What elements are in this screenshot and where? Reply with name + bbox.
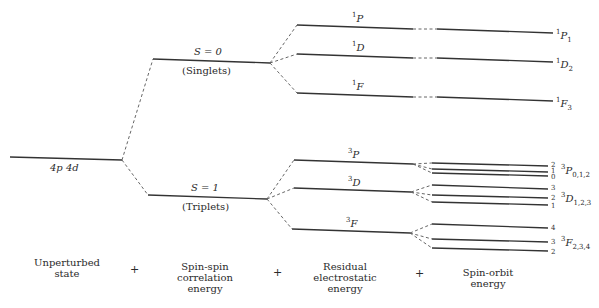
split-to-singlet [122, 59, 153, 160]
term-label-1P: 1P [352, 12, 363, 24]
j-label: 3 [551, 185, 555, 192]
term-label-1F: 1F [352, 80, 363, 92]
triplet-level [148, 195, 267, 199]
level-label-1P1: 1P1 [556, 29, 572, 44]
level-1F3 [437, 97, 553, 101]
plus-sign: + [415, 267, 424, 280]
j-label: 1 [551, 203, 555, 210]
plus-sign: + [273, 266, 282, 279]
j-label: 2 [551, 249, 555, 256]
term-3F [292, 229, 410, 233]
term-3D [294, 188, 411, 192]
triplet-sublabel: (Triplets) [182, 202, 229, 212]
term-label-3D: 3D [348, 176, 361, 188]
term-label-3F: 3F [346, 217, 357, 229]
singlet-sublabel: (Singlets) [182, 66, 231, 76]
level-group-label-3F: 3F2,3,4 [561, 236, 590, 251]
j-label: 0 [551, 174, 555, 181]
term-3P [294, 160, 413, 164]
plus-sign: + [130, 263, 139, 276]
unperturbed-level [10, 157, 122, 160]
term-label-1D: 1D [352, 41, 365, 53]
level-1D2 [437, 58, 553, 62]
level-label-1F3: 1F3 [556, 97, 572, 112]
singlet-spin-label: S = 0 [194, 47, 222, 57]
level-label-1D2: 1D2 [556, 58, 573, 73]
singlet-level [153, 59, 270, 63]
term-label-3P: 3P [348, 148, 359, 160]
caption-spin-orbit: Spin-orbitenergy [448, 267, 528, 289]
triplet-spin-label: S = 1 [191, 183, 219, 193]
configuration-label: 4p 4d [50, 163, 79, 173]
split-to-triplet [122, 160, 148, 195]
level-group-label-3P: 3P0,1,2 [561, 164, 590, 179]
term-1P [297, 25, 413, 29]
term-1D [297, 54, 413, 58]
caption-unperturbed: Unperturbedstate [22, 257, 112, 279]
level-1P1 [437, 29, 553, 33]
level-group-label-3D: 3D1,2,3 [561, 192, 591, 207]
caption-spin-spin: Spin-spincorrelationenergy [165, 261, 245, 294]
term-1F [297, 93, 413, 97]
caption-residual: Residualelectrostaticenergy [305, 261, 385, 294]
j-label: 3 [551, 239, 555, 246]
j-label: 4 [551, 225, 555, 232]
j-label: 2 [551, 195, 555, 202]
